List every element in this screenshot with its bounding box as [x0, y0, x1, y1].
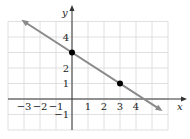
x-tick-label: 2 — [101, 101, 107, 112]
y-axis-arrow-icon — [70, 5, 75, 11]
data-point — [69, 50, 75, 56]
data-line — [21, 20, 162, 111]
x-tick-label: 4 — [133, 101, 139, 112]
coordinate-plane: −3−2−11234421−1 x y — [0, 0, 190, 139]
series-line — [24, 22, 160, 110]
x-tick-label: 1 — [85, 101, 91, 112]
x-tick-label: 3 — [117, 101, 123, 112]
y-tick-label: −1 — [54, 109, 69, 120]
x-axis-label: x — [177, 101, 183, 112]
data-point — [117, 81, 123, 87]
y-axis-label: y — [61, 7, 68, 18]
y-tick-label: 4 — [63, 32, 69, 43]
y-tick-label: 2 — [63, 63, 69, 74]
x-tick-label: −2 — [33, 101, 48, 112]
grid — [8, 22, 168, 131]
tick-labels: −3−2−11234421−1 — [17, 32, 140, 121]
x-tick-label: −3 — [17, 101, 32, 112]
y-tick-label: 1 — [63, 78, 69, 89]
